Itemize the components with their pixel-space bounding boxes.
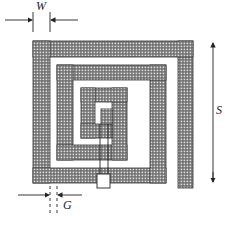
spiral-trace — [33, 41, 193, 188]
gap-dimension — [18, 186, 82, 214]
spiral-inductor-diagram — [0, 0, 226, 228]
gap-label: G — [63, 198, 72, 213]
width-label: W — [36, 0, 46, 14]
size-label: S — [216, 103, 222, 118]
width-dimension — [5, 12, 78, 32]
